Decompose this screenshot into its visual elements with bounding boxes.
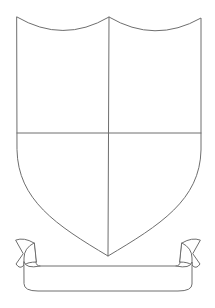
shield-template-canvas [0, 0, 215, 308]
ribbon-band [24, 262, 192, 291]
shield-drawing [0, 0, 215, 308]
ribbon-band-top-edge [36, 262, 180, 266]
